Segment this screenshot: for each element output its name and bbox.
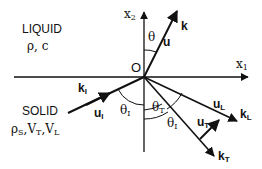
liquid-params: ρ, c [27,40,48,52]
uL-label: uL [213,98,225,112]
thetaT-label: θT [152,101,165,115]
theta-label: θ [148,31,155,43]
kI-label: kI [78,82,87,96]
thetaI-right-label: θI [167,117,177,131]
u-label: u [163,36,170,48]
wave-refraction-diagram: LIQUID ρ, c SOLID ρS,VT,VL x2 x1 O k u θ… [0,0,262,169]
solid-label: SOLID [22,105,58,117]
kL-label: kL [240,108,252,122]
k-vector [144,11,177,77]
thetaI-left-label: θI [120,104,130,118]
theta-arc [144,50,156,52]
uI-label: uI [94,107,104,121]
liquid-label: LIQUID [22,23,62,35]
kI-arrow [86,93,110,105]
origin-label: O [131,61,141,74]
solid-params: ρS,VT,VL [11,123,59,137]
uT-label: uT [197,116,209,130]
x2-label: x2 [124,8,136,22]
k-label: k [181,20,188,32]
x1-label: x1 [236,58,248,72]
kT-label: kT [218,150,230,164]
